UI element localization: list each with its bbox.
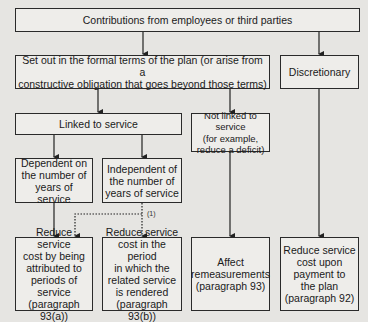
footnote-marker: (1) (147, 210, 156, 217)
node-label: Discretionary (289, 66, 350, 78)
node-label: Linked to service (59, 118, 138, 130)
node-outcome-93a: Reduce service cost by being attributed … (15, 237, 93, 311)
node-outcome-93: Affect remeasurements (paragraph 93) (191, 237, 270, 311)
node-label: Set out in the formal terms of the plan … (18, 54, 267, 90)
node-independent: Independent of the number of years of se… (102, 158, 182, 203)
node-formal-terms: Set out in the formal terms of the plan … (15, 55, 270, 89)
node-outcome-93b: Reduce service cost in the period in whi… (102, 237, 182, 311)
node-linked-to-service: Linked to service (15, 113, 182, 135)
node-not-linked-to-service: Not linked to service (for example, redu… (191, 113, 270, 152)
node-label: Reduce service cost by being attributed … (18, 226, 90, 322)
node-outcome-92: Reduce service cost upon payment to the … (280, 237, 359, 311)
node-dependent: Dependent on the number of years of serv… (15, 158, 93, 203)
node-label: Dependent on the number of years of serv… (18, 157, 90, 205)
node-discretionary: Discretionary (280, 55, 359, 89)
node-label: Not linked to service (for example, redu… (194, 110, 267, 156)
node-contributions: Contributions from employees or third pa… (15, 8, 360, 32)
node-label: Contributions from employees or third pa… (83, 14, 293, 26)
node-label: Reduce service cost in the period in whi… (105, 226, 179, 322)
node-label: Independent of the number of years of se… (105, 163, 179, 199)
node-label: Affect remeasurements (paragraph 93) (191, 256, 270, 292)
node-label: Reduce service cost upon payment to the … (283, 244, 355, 304)
